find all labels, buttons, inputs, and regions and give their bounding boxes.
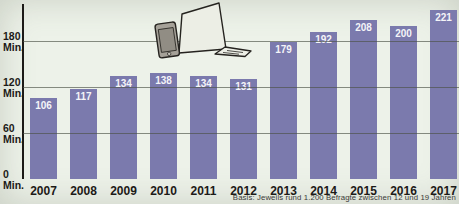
bar: 134	[190, 76, 217, 179]
bar: 192	[310, 32, 337, 179]
bar: 138	[150, 73, 177, 179]
year-label: 2007	[30, 184, 57, 198]
y-tick-label: 0Min.	[3, 169, 24, 190]
bar-value-label: 208	[350, 22, 377, 33]
bar-value-label: 221	[430, 12, 457, 23]
bar: 117	[70, 89, 97, 179]
y-axis-line	[22, 4, 24, 179]
bar: 200	[390, 26, 417, 179]
gridline	[23, 133, 459, 134]
bar-value-label: 192	[310, 34, 337, 45]
year-label: 2011	[190, 184, 216, 198]
bar-value-label: 179	[270, 44, 297, 55]
bar-chart: 180Min.120Min.60Min.0Min. 10611713413813…	[0, 0, 459, 204]
bar: 221	[430, 10, 457, 179]
y-tick-label: 120Min.	[3, 77, 24, 98]
footnote: Basis: Jeweils rund 1.200 Befragte zwisc…	[233, 193, 456, 202]
y-tick-label: 180Min.	[3, 31, 24, 52]
bar: 179	[270, 42, 297, 179]
bar: 106	[30, 98, 57, 179]
bar: 208	[350, 20, 377, 179]
year-label: 2010	[150, 184, 177, 198]
year-label: 2008	[70, 184, 97, 198]
smartphone-icon	[155, 22, 180, 59]
gridline	[23, 87, 459, 88]
y-tick-label: 60Min.	[3, 123, 24, 144]
laptop-icon	[179, 3, 251, 57]
bar-value-label: 200	[390, 28, 417, 39]
bar-value-label: 138	[150, 75, 177, 86]
devices-illustration	[133, 1, 255, 59]
year-label: 2009	[110, 184, 137, 198]
bar: 134	[110, 76, 137, 179]
bar: 131	[230, 79, 257, 179]
bar-value-label: 117	[70, 91, 97, 102]
bar-value-label: 106	[30, 100, 57, 111]
